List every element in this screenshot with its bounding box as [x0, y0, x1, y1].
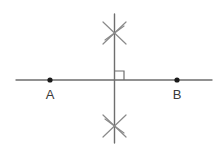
construction-diagram-svg: A B	[0, 0, 223, 146]
right-angle-mark-icon	[115, 71, 124, 80]
point-a-label: A	[46, 87, 55, 102]
point-b-dot	[174, 77, 179, 82]
point-a-dot	[47, 77, 52, 82]
point-b-label: B	[173, 87, 182, 102]
geometry-figure: A B	[0, 0, 223, 146]
